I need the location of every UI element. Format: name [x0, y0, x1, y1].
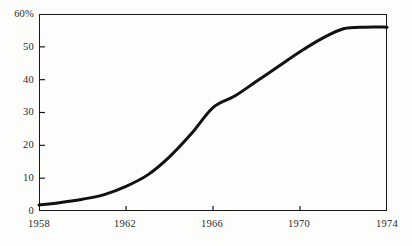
y-tick-label-20: 20: [0, 140, 34, 151]
y-tick-label-40: 40: [0, 75, 34, 86]
y-tick-label-60: 60%: [0, 9, 34, 20]
y-tick-label-0: 0: [0, 206, 34, 217]
x-tick-label-1970: 1970: [278, 219, 320, 230]
x-tick-label-1966: 1966: [191, 219, 233, 230]
y-tick-label-30: 30: [0, 107, 34, 118]
chart-page: 60% 50 40 30 20 10 0 1958 1962 1966 1970…: [0, 0, 412, 246]
x-tick-label-1962: 1962: [104, 219, 146, 230]
x-tick-label-1958: 1958: [18, 219, 60, 230]
plot-frame: [39, 14, 387, 211]
y-tick-label-50: 50: [0, 42, 34, 53]
y-tick-label-10: 10: [0, 173, 34, 184]
x-tick-label-1974: 1974: [366, 219, 408, 230]
